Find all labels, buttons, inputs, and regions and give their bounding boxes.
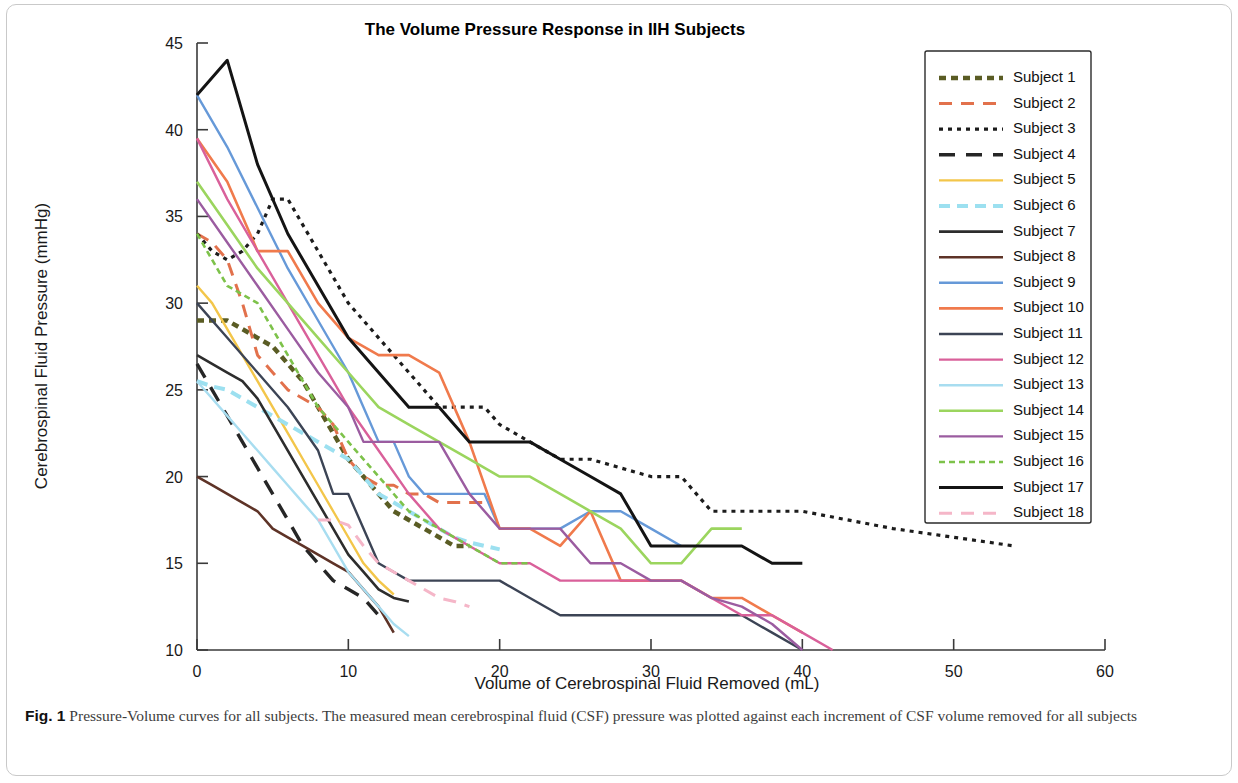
legend-label-3: Subject 3 xyxy=(1013,119,1076,136)
legend-label-2: Subject 2 xyxy=(1013,94,1076,111)
y-tick-label: 20 xyxy=(165,469,183,486)
y-tick-label: 45 xyxy=(165,35,183,52)
legend-label-6: Subject 6 xyxy=(1013,196,1076,213)
series-line-16 xyxy=(197,234,530,564)
legend-label-15: Subject 15 xyxy=(1013,426,1084,443)
figure-number: Fig. 1 xyxy=(25,707,65,724)
y-tick-label: 30 xyxy=(165,295,183,312)
legend-label-17: Subject 17 xyxy=(1013,478,1084,495)
legend-label-14: Subject 14 xyxy=(1013,401,1084,418)
figure-caption: Fig. 1 Pressure-Volume curves for all su… xyxy=(25,705,1215,727)
legend-label-8: Subject 8 xyxy=(1013,247,1076,264)
volume-pressure-chart: The Volume Pressure Response in IIH Subj… xyxy=(7,5,1233,695)
y-tick-label: 35 xyxy=(165,208,183,225)
legend-label-4: Subject 4 xyxy=(1013,145,1076,162)
y-tick-label: 40 xyxy=(165,122,183,139)
legend-label-11: Subject 11 xyxy=(1013,324,1083,341)
series-line-5 xyxy=(197,286,394,595)
series-line-8 xyxy=(197,477,394,633)
series-line-9 xyxy=(197,95,681,546)
x-tick-label: 60 xyxy=(1096,663,1114,680)
series-line-10 xyxy=(197,138,802,632)
legend-label-10: Subject 10 xyxy=(1013,298,1084,315)
legend-label-13: Subject 13 xyxy=(1013,375,1084,392)
series-line-17 xyxy=(197,60,802,563)
legend-label-1: Subject 1 xyxy=(1013,68,1076,85)
legend-label-9: Subject 9 xyxy=(1013,273,1076,290)
chart-title: The Volume Pressure Response in IIH Subj… xyxy=(365,20,745,39)
series-line-4 xyxy=(197,364,379,615)
legend-label-18: Subject 18 xyxy=(1013,503,1084,520)
chart-plot-region: The Volume Pressure Response in IIH Subj… xyxy=(7,5,1233,695)
y-tick-label: 15 xyxy=(165,555,183,572)
series-line-2 xyxy=(197,234,485,503)
legend-label-5: Subject 5 xyxy=(1013,170,1076,187)
legend-label-16: Subject 16 xyxy=(1013,452,1084,469)
x-tick-label: 0 xyxy=(193,663,202,680)
y-axis-ticks: 1015202530354045 xyxy=(165,35,208,659)
y-axis-title: Cerebrospinal Fluid Pressure (mmHg) xyxy=(32,203,51,489)
chart-legend[interactable]: Subject 1Subject 2Subject 3Subject 4Subj… xyxy=(925,51,1091,523)
y-tick-label: 25 xyxy=(165,382,183,399)
series-line-12 xyxy=(197,138,833,650)
figure-card: The Volume Pressure Response in IIH Subj… xyxy=(6,4,1232,776)
legend-label-7: Subject 7 xyxy=(1013,222,1076,239)
x-axis-title: Volume of Cerebrospinal Fluid Removed (m… xyxy=(475,674,820,693)
x-tick-label: 10 xyxy=(339,663,357,680)
legend-label-12: Subject 12 xyxy=(1013,350,1084,367)
series-line-7 xyxy=(197,355,409,601)
y-tick-label: 10 xyxy=(165,642,183,659)
figure-caption-text: Pressure-Volume curves for all subjects.… xyxy=(69,707,1137,724)
x-tick-label: 50 xyxy=(945,663,963,680)
series-lines-group xyxy=(197,60,1014,650)
